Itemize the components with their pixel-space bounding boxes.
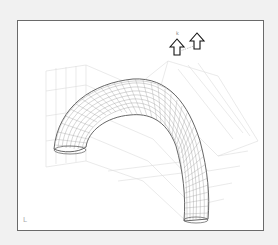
tube-surface	[54, 78, 209, 223]
axis-indicator: L	[23, 216, 27, 224]
up-arrow-handle-left[interactable]	[170, 39, 184, 55]
viewport-frame: k L	[17, 20, 264, 231]
handle-label: k	[176, 30, 179, 36]
wireframe-scene[interactable]: k	[18, 21, 265, 232]
